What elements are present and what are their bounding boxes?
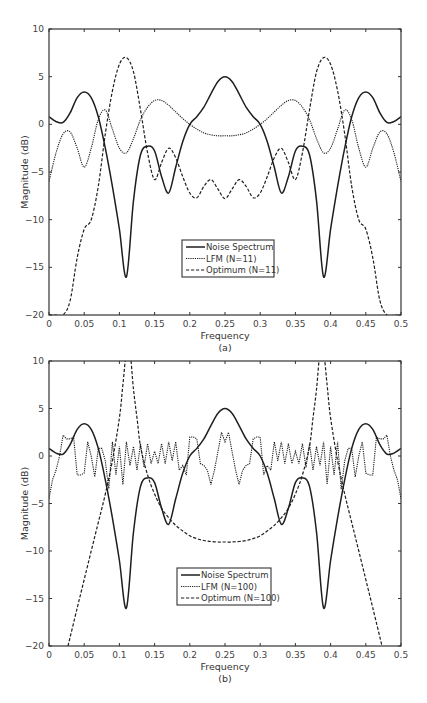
x-axis-label: Frequency (200, 330, 249, 341)
y-axis-label: Magnitude (dB) (19, 467, 30, 540)
x-tick-label: 0.3 (253, 650, 267, 660)
x-tick-label: 0 (46, 319, 52, 329)
x-tick-label: 0.2 (183, 650, 197, 660)
x-tick-label: 0.05 (74, 650, 94, 660)
x-tick-label: 0.4 (323, 319, 338, 329)
x-tick-label: 0.45 (356, 650, 376, 660)
x-tick-label: 0.05 (74, 319, 94, 329)
x-axis-label: Frequency (200, 661, 249, 672)
y-tick-label: 10 (33, 356, 45, 366)
legend-entry: Noise Spectrum (201, 570, 268, 580)
x-tick-label: 0 (46, 650, 52, 660)
y-tick-label: 10 (33, 24, 45, 34)
y-axis-label: Magnitude (dB) (19, 135, 30, 208)
legend-entry: Noise Spectrum (206, 242, 273, 252)
legend-entry: Optimum (N=11) (206, 265, 279, 275)
x-tick-label: 0.35 (285, 650, 305, 660)
y-tick-label: 5 (38, 72, 44, 82)
legend: Noise SpectrumLFM (N=100)Optimum (N=100) (177, 568, 280, 605)
x-tick-label: 0.3 (253, 319, 267, 329)
chart-panel-b: 00.050.10.150.20.250.30.350.40.450.51050… (19, 347, 408, 684)
x-tick-label: 0.2 (183, 319, 197, 329)
y-tick-label: 5 (38, 404, 44, 414)
x-tick-label: 0.25 (215, 319, 235, 329)
y-tick-label: −10 (25, 546, 44, 556)
panel-caption: (a) (218, 342, 231, 353)
panel-caption: (b) (218, 673, 231, 684)
x-tick-label: 0.4 (323, 650, 338, 660)
y-tick-label: 0 (38, 451, 44, 461)
chart-panel-a: 00.050.10.150.20.250.30.350.40.450.51050… (19, 24, 408, 353)
legend-entry: LFM (N=100) (201, 582, 257, 592)
y-tick-label: −15 (25, 262, 44, 272)
legend-entry: Optimum (N=100) (201, 593, 280, 603)
x-tick-label: 0.45 (356, 319, 376, 329)
y-tick-label: 0 (38, 119, 44, 129)
y-tick-label: −20 (25, 310, 44, 320)
y-tick-label: −5 (31, 167, 44, 177)
x-tick-label: 0.1 (112, 650, 126, 660)
x-tick-label: 0.5 (394, 650, 408, 660)
legend: Noise SpectrumLFM (N=11)Optimum (N=11) (182, 240, 279, 277)
x-tick-label: 0.1 (112, 319, 126, 329)
x-tick-label: 0.25 (215, 650, 235, 660)
series-line-dotted (49, 100, 401, 182)
x-tick-label: 0.15 (145, 650, 165, 660)
y-tick-label: −5 (31, 499, 44, 509)
figure-canvas: 00.050.10.150.20.250.30.350.40.450.51050… (0, 0, 427, 703)
y-tick-label: −20 (25, 641, 44, 651)
x-tick-label: 0.35 (285, 319, 305, 329)
x-tick-label: 0.15 (145, 319, 165, 329)
y-tick-label: −15 (25, 594, 44, 604)
y-tick-label: −10 (25, 215, 44, 225)
x-tick-label: 0.5 (394, 319, 408, 329)
legend-entry: LFM (N=11) (206, 254, 257, 264)
